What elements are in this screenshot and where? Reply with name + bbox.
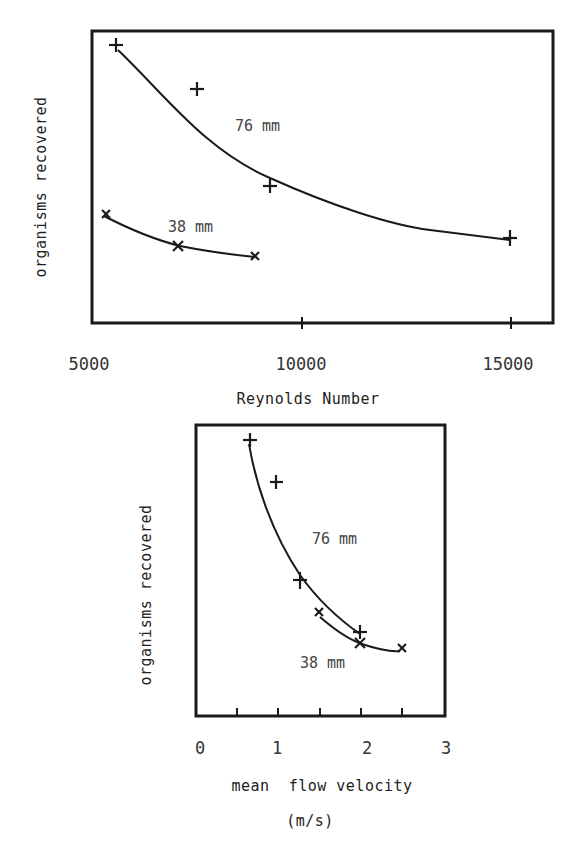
top-x-tick-label: 5000 (69, 354, 110, 374)
bottom-y-axis-title: organisms recovered (137, 504, 155, 685)
top-x-axis-title: Reynolds Number (237, 390, 380, 408)
bottom-x-axis-title: mean flow velocity (231, 777, 412, 795)
top-plot-frame (92, 31, 553, 323)
top-series-label-38mm: 38 mm (168, 218, 213, 236)
bottom-plot-frame (196, 425, 445, 716)
top-76mm-curve (118, 50, 510, 240)
bottom-x-tick-label: 3 (441, 738, 451, 758)
top-x-tick-label: 10000 (275, 354, 326, 374)
top-x-tick-label: 15000 (482, 354, 533, 374)
bottom-chart: 76 mm 38 mm 0 1 2 3 mean flow velocity (… (137, 425, 451, 830)
top-chart: 76 mm 38 mm 5000 10000 15000 Reynolds Nu… (32, 31, 553, 408)
bottom-x-tick-label: 0 (195, 738, 205, 758)
plus-marker-icon (109, 38, 517, 246)
bottom-x-tick-label: 2 (362, 738, 372, 758)
bottom-series-label-38mm: 38 mm (300, 654, 345, 672)
bottom-series-label-76mm: 76 mm (312, 530, 357, 548)
bottom-x-axis-unit: (m/s) (286, 812, 334, 830)
top-series-label-76mm: 76 mm (235, 117, 280, 135)
top-y-axis-title: organisms recovered (32, 96, 50, 277)
figure: 76 mm 38 mm 5000 10000 15000 Reynolds Nu… (0, 0, 574, 848)
bottom-x-tick-label: 1 (272, 738, 282, 758)
